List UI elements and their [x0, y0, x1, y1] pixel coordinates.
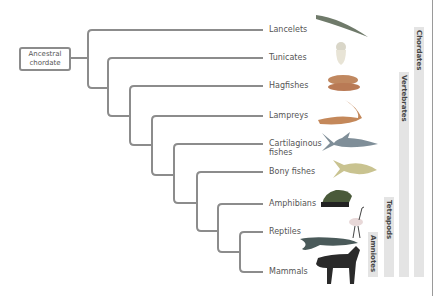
group-label-chordates: Chordates — [414, 30, 424, 70]
shark-icon — [322, 132, 378, 151]
tunicate-icon — [336, 42, 346, 65]
group-bar-chordates: Chordates — [414, 27, 424, 277]
cladogram: Ancestral chordate Lancelets Tunicates H… — [0, 0, 440, 297]
horse-icon — [316, 246, 360, 284]
hagfish-icon — [328, 75, 360, 91]
frog-icon — [321, 190, 352, 207]
group-label-tetrapods: Tetrapods — [384, 200, 394, 239]
group-bar-tetrapods: Tetrapods — [384, 197, 394, 277]
group-label-amniotes: Amniotes — [368, 235, 378, 272]
bony-fish-icon — [333, 160, 377, 178]
bird-icon — [349, 207, 364, 238]
lancelet-icon — [316, 15, 368, 37]
group-bar-amniotes: Amniotes — [368, 232, 378, 277]
reptile-icon — [300, 237, 358, 250]
group-label-vertebrates: Vertebrates — [399, 75, 409, 122]
group-bar-vertebrates: Vertebrates — [399, 72, 409, 277]
lamprey-icon — [318, 100, 362, 124]
